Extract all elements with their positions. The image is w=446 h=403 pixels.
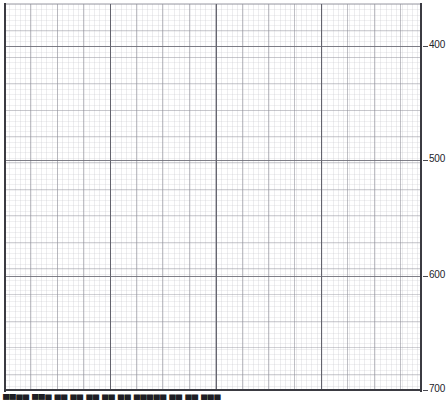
plot-frame-left	[4, 3, 6, 392]
plot-frame-right	[420, 3, 422, 392]
bottom-caption-strip: ██▄▄ ██▄ ▄▄ ▄▄ ▄▄ ▄▄ ▄▄ ▄▄▄▄▄ ▄▄ ▄▄ ▄▄▄	[0, 394, 446, 403]
major-vertical-grid	[4, 4, 422, 390]
y-axis-label-600: 600	[429, 270, 445, 280]
gridline-rule-600	[4, 276, 422, 277]
plot-frame-top	[4, 3, 422, 4]
plot-area[interactable]	[4, 4, 422, 390]
chart-root: 400 500 600 700 ██▄▄ ██▄ ▄▄ ▄▄ ▄▄ ▄▄ ▄▄ …	[0, 0, 446, 403]
y-axis-label-700: 700	[429, 384, 445, 394]
plot-frame-bottom	[4, 389, 422, 391]
y-axis-right: 400 500 600 700	[423, 0, 446, 403]
bottom-caption-text: ██▄▄ ██▄ ▄▄ ▄▄ ▄▄ ▄▄ ▄▄ ▄▄▄▄▄ ▄▄ ▄▄ ▄▄▄	[3, 394, 221, 399]
y-axis-tick-600	[423, 276, 428, 277]
gridline-rule-400	[4, 46, 422, 47]
y-axis-label-500: 500	[429, 154, 445, 164]
y-axis-tick-400	[423, 46, 428, 47]
y-axis-tick-500	[423, 160, 428, 161]
y-axis-tick-700	[423, 390, 428, 391]
y-axis-label-400: 400	[429, 40, 445, 50]
gridline-rule-500	[4, 160, 422, 161]
